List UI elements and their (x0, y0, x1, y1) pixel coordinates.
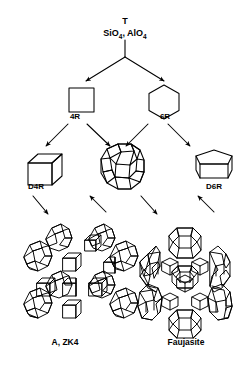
faujasite-linker (192, 258, 208, 275)
arrow-d4r-to-framework-a (33, 196, 48, 214)
faujasite-linker (162, 258, 178, 275)
primary-unit-formula: SiO4, AlO4 (0, 29, 250, 40)
shape-d4r-cube (28, 154, 62, 185)
framework-a-linker (63, 278, 76, 296)
formula-sio4-prefix: SiO (103, 28, 119, 38)
label-6r: 6R (153, 113, 177, 121)
arrow-t-to-6r (125, 57, 164, 81)
shape-4r-square (69, 88, 94, 112)
faujasite-cage (169, 228, 201, 258)
faujasite-linker (177, 275, 193, 292)
figure-canvas: T SiO4, AlO4 4R 6R D4R D6R A, ZK4 Faujas… (0, 0, 250, 365)
label-4r: 4R (63, 113, 87, 121)
shape-d6r-hexagonal-prism (196, 150, 232, 178)
arrow-t-to-4r (86, 57, 125, 81)
shape-sodalite-cage (101, 144, 144, 189)
label-zeolite-a-zk4: A, ZK4 (10, 338, 120, 347)
label-d6r: D6R (194, 183, 234, 191)
framework-a-cage (24, 288, 52, 318)
framework-a-cage (46, 224, 72, 251)
framework-a-linker (63, 300, 81, 318)
arrow-d6r-to-faujasite (198, 196, 214, 212)
arrow-cage-to-faujasite (141, 196, 157, 214)
label-faujasite: Faujasite (132, 338, 240, 347)
framework-a-cage (110, 288, 138, 318)
formula-alo4-subscript: 4 (143, 33, 147, 40)
primary-unit-symbol: T (0, 17, 250, 26)
shape-zeolite-a-framework (24, 224, 138, 318)
arrow-4r-to-cage (87, 124, 110, 146)
label-d4r: D4R (16, 183, 56, 191)
faujasite-cage (169, 310, 201, 338)
arrow-cage-to-framework-a (90, 196, 106, 212)
formula-separator: , AlO (122, 28, 143, 38)
faujasite-linker (192, 293, 208, 310)
arrow-4r-to-d4r (46, 124, 68, 146)
arrow-6r-to-cage (126, 124, 148, 146)
framework-a-cage (24, 241, 52, 271)
faujasite-cage (208, 284, 232, 320)
framework-a-cage (89, 224, 115, 251)
arrow-6r-to-d6r (168, 124, 190, 146)
shape-faujasite-framework (138, 228, 232, 338)
faujasite-linker (162, 293, 178, 310)
framework-a-cage (110, 241, 138, 271)
framework-a-linker (63, 253, 81, 271)
